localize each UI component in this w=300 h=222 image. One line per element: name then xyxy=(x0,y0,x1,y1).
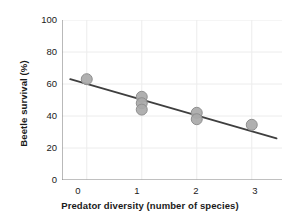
data-point xyxy=(191,114,202,125)
y-tick-label-0: 0 xyxy=(52,175,57,185)
data-points-group xyxy=(81,74,257,131)
y-tick-label-20: 20 xyxy=(46,143,57,153)
y-tick-label-60: 60 xyxy=(46,79,57,89)
data-point xyxy=(81,74,92,85)
x-tick-label-0: 0 xyxy=(75,186,80,196)
data-point xyxy=(136,104,147,115)
regression-line xyxy=(70,79,276,138)
y-tick-label-100: 100 xyxy=(41,15,57,25)
plot-area: 0 20 40 60 80 100 0 1 2 3 xyxy=(62,20,282,180)
x-tick-label-1: 1 xyxy=(134,186,139,196)
x-axis-title: Predator diversity (number of species) xyxy=(0,200,300,211)
y-axis-title: Beetle survival (%) xyxy=(18,34,29,174)
chart-canvas xyxy=(62,20,282,180)
data-point xyxy=(246,119,257,130)
y-tick-label-40: 40 xyxy=(46,111,57,121)
x-tick-label-3: 3 xyxy=(252,186,257,196)
chart-figure: Beetle survival (%) Predator diversity (… xyxy=(0,0,300,222)
regression-line-group xyxy=(70,79,276,138)
axis-spines-group xyxy=(62,20,282,180)
x-tick-label-2: 2 xyxy=(193,186,198,196)
y-tick-label-80: 80 xyxy=(46,47,57,57)
gridlines-group xyxy=(62,20,282,180)
